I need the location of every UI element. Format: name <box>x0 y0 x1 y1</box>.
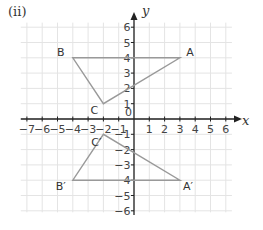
x-tick-label: 6 <box>222 123 229 136</box>
x-tick-label: −3 <box>80 123 96 136</box>
x-tick-label: −6 <box>34 123 50 136</box>
part-label: (ii) <box>8 4 26 19</box>
y-tick-label: 5 <box>124 37 131 50</box>
vertex-label: B′ <box>56 180 67 193</box>
x-axis-label: x <box>242 113 250 128</box>
x-tick-label: 4 <box>192 123 199 136</box>
coordinate-grid-figure: −7−6−5−4−3−2−1123456654321−1−2−3−4−5−60 … <box>0 0 263 230</box>
y-tick-label: 3 <box>124 67 131 80</box>
vertex-label: C′ <box>91 136 102 149</box>
vertex-label: A <box>186 46 194 59</box>
y-tick-label: −1 <box>114 128 130 141</box>
x-tick-label: 5 <box>207 123 214 136</box>
y-axis-arrow-icon <box>131 12 138 20</box>
y-tick-label: −3 <box>114 159 130 172</box>
vertex-label: A′ <box>183 180 194 193</box>
x-tick-label: −5 <box>49 123 65 136</box>
y-tick-label: −6 <box>114 205 130 218</box>
origin-label: 0 <box>125 106 132 119</box>
y-tick-label: −5 <box>114 190 130 203</box>
x-tick-label: 2 <box>161 123 168 136</box>
y-tick-label: 6 <box>124 21 131 34</box>
x-tick-label: −4 <box>65 123 81 136</box>
vertex-label: B <box>57 46 65 59</box>
x-tick-label: 3 <box>176 123 183 136</box>
x-tick-label: 1 <box>146 123 153 136</box>
x-tick-label: −7 <box>19 123 35 136</box>
vertex-label: C <box>91 104 99 117</box>
y-axis-label: y <box>141 3 150 18</box>
x-axis-arrow-icon <box>234 116 242 123</box>
